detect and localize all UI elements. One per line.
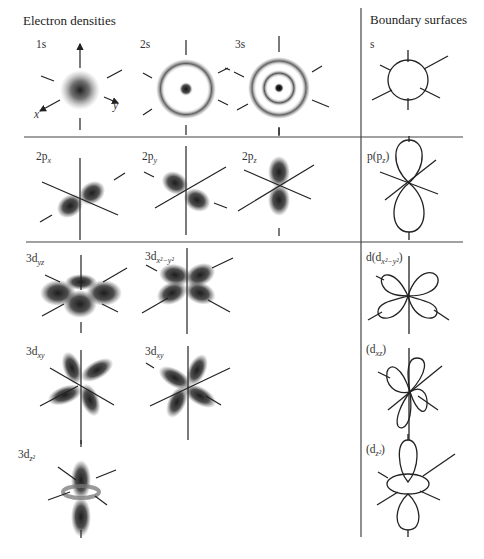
label-1s: 1s	[36, 38, 46, 50]
boundary-s	[372, 50, 448, 110]
orbital-3dz2-density	[48, 440, 116, 538]
label-boundary-s: s	[370, 38, 374, 50]
boundary-dxz	[378, 348, 442, 440]
label-3s: 3s	[235, 38, 245, 50]
header-electron-densities: Electron densities	[23, 13, 116, 29]
label-3dxy-1: 3dxy	[26, 345, 45, 360]
axis-label-x: x	[34, 108, 39, 120]
orbital-3s-density	[225, 36, 329, 136]
label-2py: 2py	[142, 150, 157, 165]
label-3dyz: 3dyz	[26, 252, 44, 267]
boundary-dz2	[377, 434, 455, 537]
orbital-2pz-density	[238, 127, 314, 236]
orbital-1s-density	[40, 44, 122, 130]
orbital-2s-density	[143, 40, 228, 135]
label-2s: 2s	[140, 38, 150, 50]
orbital-diagram	[0, 0, 484, 559]
orbital-3dxy-density-1	[40, 349, 117, 444]
orbital-2px-density	[40, 158, 125, 240]
label-boundary-pz: p(pz)	[367, 150, 389, 165]
label-3dz2: 3dz²	[18, 448, 35, 463]
label-boundary-dx2y2: d(dx²−y²)	[366, 251, 402, 266]
label-3dx2y2: 3dx²−y²	[145, 250, 174, 265]
label-2pz: 2pz	[242, 150, 257, 165]
boundary-dx2y2	[368, 256, 449, 334]
orbital-3dyz-density	[40, 255, 127, 333]
label-2px: 2px	[36, 150, 51, 165]
label-boundary-dxz: (dxz)	[366, 343, 386, 358]
header-boundary-surfaces: Boundary surfaces	[370, 12, 467, 28]
label-3dxy-2: 3dxy	[145, 345, 164, 360]
axis-label-y: y	[113, 99, 118, 111]
label-boundary-dz2: (dz²)	[366, 443, 385, 458]
